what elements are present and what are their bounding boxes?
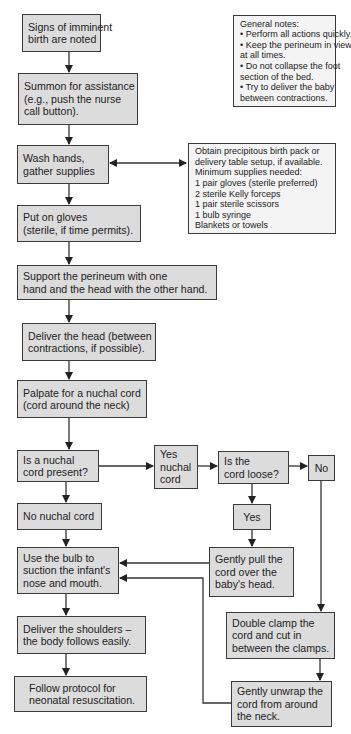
flowchart-canvas: Signs of imminent birth are noted Summon…: [0, 0, 351, 734]
node-wash-hands: Wash hands, gather supplies: [17, 145, 109, 184]
node-deliver-head: Deliver the head (between contractions, …: [22, 323, 156, 361]
node-suction-bulb: Use the bulb to suction the infant's nos…: [17, 547, 119, 594]
node-signs-of-birth: Signs of imminent birth are noted: [22, 14, 101, 52]
node-summon-assistance: Summon for assistance (e.g., push the nu…: [18, 73, 138, 125]
node-no-nuchal-cord: No nuchal cord: [17, 503, 102, 530]
node-palpate-nuchal-cord: Palpate for a nuchal cord (cord around t…: [17, 380, 147, 418]
node-no: No: [308, 455, 335, 481]
general-notes: General notes: • Perform all actions qui…: [233, 15, 336, 107]
node-put-on-gloves: Put on gloves (sterile, if time permits)…: [17, 205, 141, 242]
node-supplies-list: Obtain precipitous birth pack or deliver…: [188, 143, 336, 234]
decision-nuchal-cord-present: Is a nuchal cord present?: [17, 450, 99, 482]
node-deliver-shoulders: Deliver the shoulders – the body follows…: [17, 616, 146, 654]
node-neonatal-resuscitation: Follow protocol for neonatal resuscitati…: [14, 676, 147, 712]
node-yes-nuchal-cord: Yes nuchal cord: [154, 445, 198, 489]
node-double-clamp: Double clamp the cord and cut in between…: [226, 612, 335, 659]
node-yes: Yes: [233, 504, 271, 530]
decision-cord-loose: Is the cord loose?: [218, 451, 289, 484]
node-unwrap-cord: Gently unwrap the cord from around the n…: [231, 681, 332, 727]
node-pull-cord-over-head: Gently pull the cord over the baby's hea…: [209, 547, 294, 597]
node-support-perineum: Support the perineum with one hand and t…: [17, 265, 217, 300]
